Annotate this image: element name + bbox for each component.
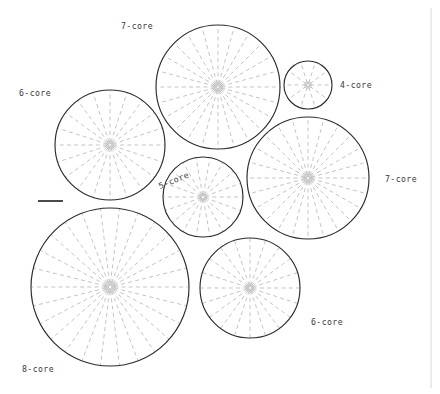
- radial-spoke: [205, 184, 240, 197]
- hub-ring: [307, 177, 310, 180]
- radial-spoke: [114, 268, 186, 286]
- radial-spoke: [202, 90, 217, 146]
- radial-spoke: [196, 199, 202, 236]
- radial-spoke: [66, 147, 108, 177]
- radial-spoke: [173, 198, 201, 222]
- radial-spoke: [101, 291, 110, 365]
- radial-spoke: [165, 56, 215, 85]
- core-label: 6-core: [19, 88, 51, 98]
- radial-spoke: [251, 291, 265, 335]
- hub-tick: [112, 286, 116, 287]
- radial-spoke: [101, 209, 110, 283]
- radial-spoke: [78, 101, 108, 143]
- radial-spoke: [289, 71, 306, 83]
- radial-spoke: [112, 101, 142, 143]
- radial-spoke: [51, 235, 106, 284]
- radial-spoke: [165, 89, 215, 118]
- radial-spoke: [220, 90, 249, 140]
- radial-spoke: [204, 199, 223, 231]
- radial-spoke: [112, 214, 138, 283]
- radial-spoke: [221, 88, 277, 103]
- radial-spoke: [301, 87, 308, 107]
- hub-ring: [108, 285, 111, 288]
- radial-spoke: [78, 147, 108, 189]
- radial-spoke: [159, 71, 215, 86]
- radial-spoke: [235, 241, 249, 285]
- radial-spoke: [311, 180, 360, 209]
- radial-spoke: [205, 172, 233, 196]
- radial-spoke: [114, 288, 186, 306]
- radial-spoke: [310, 180, 350, 220]
- radial-spoke: [221, 89, 271, 118]
- radial-spoke: [220, 44, 261, 85]
- hub-ring: [249, 287, 252, 290]
- circle-outline: [163, 157, 243, 237]
- radial-spoke: [113, 290, 168, 339]
- hub-ring: [307, 84, 310, 87]
- core-label: 5-core: [157, 170, 190, 191]
- radial-spoke: [292, 181, 307, 236]
- radial-spoke: [113, 235, 168, 284]
- circle-8core-bottomleft: [31, 208, 189, 366]
- radial-spoke: [41, 289, 107, 323]
- hub-tick: [104, 287, 108, 288]
- radial-spoke: [111, 209, 120, 283]
- radial-spoke: [203, 199, 209, 236]
- radial-spoke: [114, 289, 180, 323]
- radial-spoke: [251, 241, 265, 285]
- radial-spoke: [256, 180, 305, 209]
- radial-spoke: [278, 126, 307, 175]
- radial-spoke: [112, 147, 142, 189]
- core-label: 6-core: [311, 317, 343, 327]
- radial-spoke: [175, 44, 216, 85]
- radial-spoke: [311, 148, 360, 177]
- radial-spoke: [203, 158, 209, 195]
- radial-spoke: [205, 198, 240, 211]
- core-label: 4-core: [340, 80, 372, 90]
- radial-spoke: [309, 120, 324, 175]
- radial-spoke: [34, 288, 106, 306]
- radial-spoke: [175, 89, 216, 130]
- circle-7core-right: [247, 117, 369, 239]
- radial-spoke: [310, 126, 339, 175]
- radial-spoke: [220, 34, 249, 84]
- radial-spoke: [166, 198, 201, 211]
- radial-spoke: [196, 158, 202, 195]
- diagram-canvas: 7-core6-core4-core7-core5-core8-core6-co…: [0, 0, 440, 394]
- radial-spoke: [250, 179, 305, 194]
- radial-spoke: [310, 71, 327, 83]
- radial-spoke: [253, 289, 297, 303]
- circle-6core-bottomright: [200, 238, 300, 338]
- circle-4core-topright: [284, 61, 332, 109]
- radial-spoke: [289, 86, 306, 98]
- radial-spoke: [219, 28, 234, 84]
- radial-spoke: [311, 162, 366, 177]
- radial-spoke: [310, 86, 327, 98]
- circle-5core-center: [163, 157, 243, 237]
- radial-spoke: [265, 135, 305, 175]
- radial-spoke: [159, 88, 215, 103]
- radial-spoke: [34, 268, 106, 286]
- radial-spoke: [292, 120, 307, 175]
- core-label: 7-core: [121, 21, 153, 31]
- radial-spoke: [310, 181, 339, 230]
- radial-spoke: [203, 273, 247, 287]
- radial-spoke: [187, 34, 216, 84]
- radial-spoke: [204, 163, 223, 195]
- circle-outline: [55, 90, 165, 200]
- hub-ring: [109, 144, 112, 147]
- radial-spoke: [265, 180, 305, 220]
- radial-spoke: [82, 214, 108, 283]
- radial-spoke: [309, 181, 324, 236]
- radial-spoke: [235, 291, 249, 335]
- radial-spoke: [309, 63, 316, 83]
- radial-spoke: [202, 28, 217, 84]
- radial-spoke: [310, 135, 350, 175]
- radial-spoke: [250, 162, 305, 177]
- radial-spoke: [221, 56, 271, 85]
- radial-spoke: [112, 291, 138, 360]
- radial-spoke: [112, 113, 154, 143]
- radial-spoke: [66, 113, 108, 143]
- radial-spoke: [311, 179, 366, 194]
- circle-6core-left: [55, 90, 165, 200]
